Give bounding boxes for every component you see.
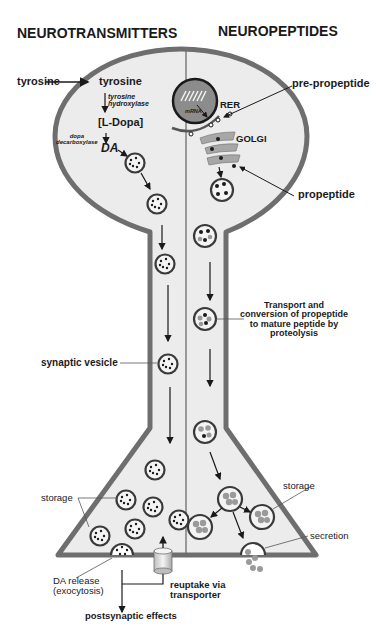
label-secretion: secretion xyxy=(310,531,349,541)
label-storage-right: storage xyxy=(283,481,315,491)
header-neuropeptides: NEUROPEPTIDES xyxy=(218,24,338,39)
label-da: DA xyxy=(101,142,118,155)
nucleus xyxy=(173,79,217,123)
label-transport-conversion: Transport and conversion of propeptide t… xyxy=(240,301,348,339)
label-golgi: GOLGI xyxy=(236,134,267,144)
label-mrna: mRNA xyxy=(185,109,202,115)
label-reuptake: reuptake via transporter xyxy=(170,580,225,600)
label-propeptide: propeptide xyxy=(298,189,355,201)
label-storage-left: storage xyxy=(41,493,73,503)
label-tyrosine-outside: tyrosine xyxy=(17,76,60,88)
label-dopa-decarboxylase: dopa decarboxylase xyxy=(56,133,98,146)
label-l-dopa: [L-Dopa] xyxy=(98,117,143,129)
header-neurotransmitters: NEUROTRANSMITTERS xyxy=(17,26,177,41)
label-tyrosine-inside: tyrosine xyxy=(99,76,142,88)
label-postsynaptic-effects: postsynaptic effects xyxy=(85,611,177,621)
label-synaptic-vesicle: synaptic vesicle xyxy=(41,358,118,369)
label-tyrosine-hydroxylase: tyrosine hydroxylase xyxy=(108,93,149,108)
label-pre-propeptide: pre-propeptide xyxy=(292,78,370,90)
label-da-release: DA release (exocytosis) xyxy=(53,576,104,596)
label-rer: RER xyxy=(220,100,240,110)
